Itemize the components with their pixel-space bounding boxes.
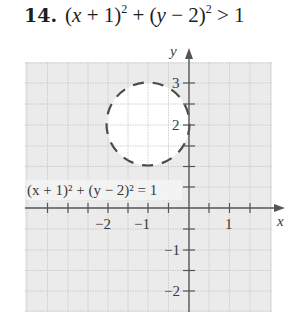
x-axis-arrow-icon [274, 204, 285, 212]
tick-label-x-neg1: −1 [134, 216, 150, 232]
x-axis-label: x [276, 213, 284, 229]
tick-label-y-2: 2 [172, 117, 180, 133]
y-axis-label: y [168, 43, 177, 59]
graph: y x −2 −1 1 3 2 −1 −2 (x + 1)² + (y − 2)… [0, 0, 306, 316]
y-axis-arrow-icon [185, 48, 193, 59]
tick-label-x-1: 1 [225, 216, 233, 232]
tick-label-y-neg1: −1 [164, 242, 180, 258]
boundary-equation-label: (x + 1)² + (y − 2)² = 1 [27, 182, 157, 199]
tick-label-y-3: 3 [172, 75, 180, 91]
tick-label-y-neg2: −2 [164, 283, 180, 299]
tick-label-x-neg2: −2 [95, 216, 111, 232]
